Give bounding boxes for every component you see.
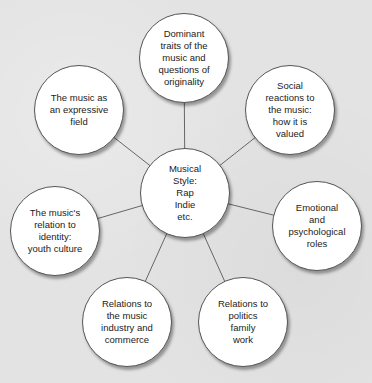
node-label: The music as an expressive field [44, 92, 115, 128]
node-label: Social reactions to the music: how it is… [259, 80, 320, 140]
node-label: Relations to the music industry and comm… [95, 298, 159, 346]
node-relations-industry: Relations to the music industry and comm… [82, 277, 172, 367]
node-label: Relations to politics family work [212, 298, 274, 346]
node-label: The music's relation to identity: youth … [22, 207, 88, 255]
node-social-reactions: Social reactions to the music: how it is… [245, 65, 335, 155]
node-dominant-traits: Dominant traits of the music and questio… [139, 13, 229, 103]
diagram-canvas: Dominant traits of the music and questio… [0, 0, 372, 383]
center-node-musical-style: Musical Style: Rap Indie etc. [140, 148, 230, 238]
node-expressive-field: The music as an expressive field [34, 65, 124, 155]
center-node-label: Musical Style: Rap Indie etc. [163, 163, 207, 223]
node-relations-politics: Relations to politics family work [198, 277, 288, 367]
node-label: Emotional and psychological roles [282, 202, 351, 250]
node-identity: The music's relation to identity: youth … [10, 186, 100, 276]
node-emotional-roles: Emotional and psychological roles [272, 181, 362, 271]
node-label: Dominant traits of the music and questio… [152, 28, 215, 88]
